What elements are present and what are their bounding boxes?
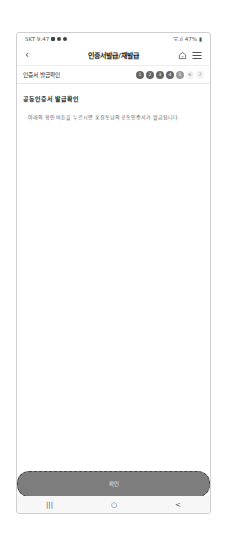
- step-header: 인증서 발급확인 1 2 3 4 5 6 7: [17, 65, 210, 84]
- step-indicator: 1 2 3 4 5 6 7: [136, 71, 204, 79]
- confirm-button[interactable]: 확인: [17, 471, 210, 497]
- recent-apps-button[interactable]: |||: [46, 501, 53, 509]
- step-2: 2: [146, 71, 154, 79]
- step-5: 5: [176, 71, 184, 79]
- step-3: 3: [156, 71, 164, 79]
- section-heading: 공동인증서 발급확인: [23, 94, 204, 103]
- phone-screen: SKT 9:47 ᯤ.ıl 47% ▮ ‹ 인증서발급/재발급 인증서 발급확인…: [16, 32, 211, 514]
- step-7: 7: [196, 71, 204, 79]
- back-nav-button[interactable]: <: [175, 501, 181, 509]
- step-6: 6: [186, 71, 194, 79]
- battery-icon: ▮: [199, 36, 202, 42]
- chat-icon: [63, 37, 67, 41]
- status-bar: SKT 9:47 ᯤ.ıl 47% ▮: [17, 33, 210, 45]
- notification-icon: [51, 37, 55, 41]
- app-header: ‹ 인증서발급/재발급: [17, 45, 210, 65]
- home-button[interactable]: ○: [111, 501, 117, 509]
- back-button[interactable]: ‹: [25, 50, 29, 60]
- signal-icon: ᯤ.ıl: [173, 35, 183, 43]
- description-text: · 아래의 확인 버튼을 누르시면 홍길동님의 공동인증서가 발급됩니다.: [23, 113, 204, 121]
- carrier-time: SKT 9:47: [25, 36, 49, 42]
- hamburger-menu-icon[interactable]: [192, 51, 202, 60]
- home-icon[interactable]: [178, 51, 187, 60]
- step-1: 1: [136, 71, 144, 79]
- content-area: 공동인증서 발급확인 · 아래의 확인 버튼을 누르시면 홍길동님의 공동인증서…: [17, 84, 210, 131]
- step-label: 인증서 발급확인: [23, 70, 60, 79]
- chat-icon: [57, 37, 61, 41]
- battery-level: 47%: [185, 36, 197, 42]
- system-nav-bar: ||| ○ <: [17, 496, 210, 513]
- step-4: 4: [166, 71, 174, 79]
